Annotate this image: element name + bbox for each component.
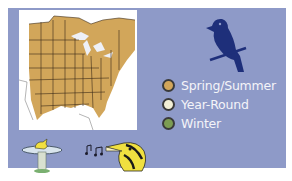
bird-feeder-icon [20, 136, 64, 174]
range-map-panel: Spring/Summer Year-Round Winter [8, 8, 286, 168]
north-america-map-icon [19, 10, 137, 130]
legend-label: Year-Round [181, 97, 249, 112]
legend-label: Spring/Summer [181, 78, 276, 93]
legend-label: Winter [181, 116, 221, 131]
winter-swatch-icon [162, 117, 175, 130]
bird-silhouette-icon [200, 14, 250, 76]
year-round-swatch-icon [162, 98, 175, 111]
legend-item-spring-summer: Spring/Summer [162, 76, 276, 94]
legend-item-year-round: Year-Round [162, 95, 276, 113]
legend: Spring/Summer Year-Round Winter [162, 76, 276, 133]
spring-summer-swatch-icon [162, 79, 175, 92]
singing-bird-icon [102, 137, 150, 173]
legend-item-winter: Winter [162, 114, 276, 132]
range-map [19, 10, 137, 130]
